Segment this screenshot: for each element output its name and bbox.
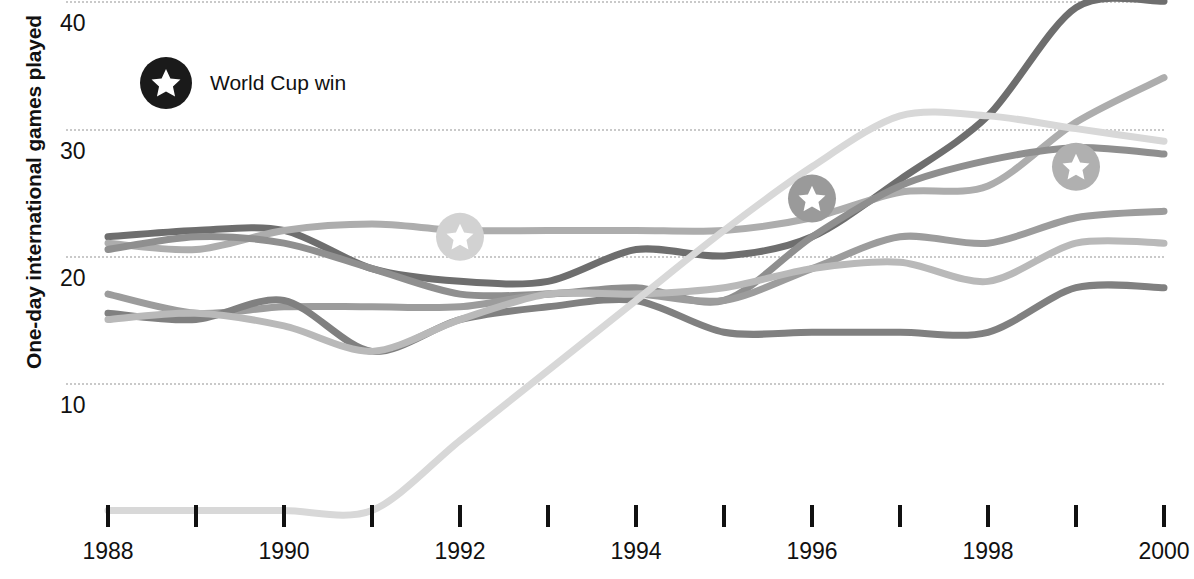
x-tick-mark-1990 [282, 505, 286, 527]
x-tick-label-1990: 1990 [224, 538, 344, 565]
y-axis-title: One-day international games played [22, 0, 46, 412]
x-tick-mark-1992 [458, 505, 462, 527]
x-tick-mark-1994 [634, 505, 638, 527]
star-badge-icon [140, 57, 192, 109]
x-tick-mark-1989 [194, 505, 198, 527]
x-tick-label-1996: 1996 [752, 538, 872, 565]
star-icon [149, 66, 183, 100]
x-tick-label-1992: 1992 [400, 538, 520, 565]
x-tick-mark-1993 [546, 505, 550, 527]
x-tick-mark-1996 [810, 505, 814, 527]
world-cup-win-1996 [788, 175, 836, 223]
x-tick-mark-1998 [986, 505, 990, 527]
x-tick-mark-1995 [722, 505, 726, 527]
x-tick-mark-1988 [106, 505, 110, 527]
x-tick-label-1998: 1998 [928, 538, 1048, 565]
x-tick-label-1988: 1988 [48, 538, 168, 565]
x-tick-mark-1999 [1074, 505, 1078, 527]
world-cup-win-1999 [1052, 143, 1100, 191]
x-tick-mark-2000 [1162, 505, 1166, 527]
x-tick-label-1994: 1994 [576, 538, 696, 565]
legend: World Cup win [140, 57, 346, 109]
x-tick-mark-1991 [370, 505, 374, 527]
legend-label: World Cup win [210, 71, 346, 95]
world-cup-win-1992 [436, 213, 484, 261]
x-tick-mark-1997 [898, 505, 902, 527]
x-tick-label-2000: 2000 [1104, 538, 1194, 565]
